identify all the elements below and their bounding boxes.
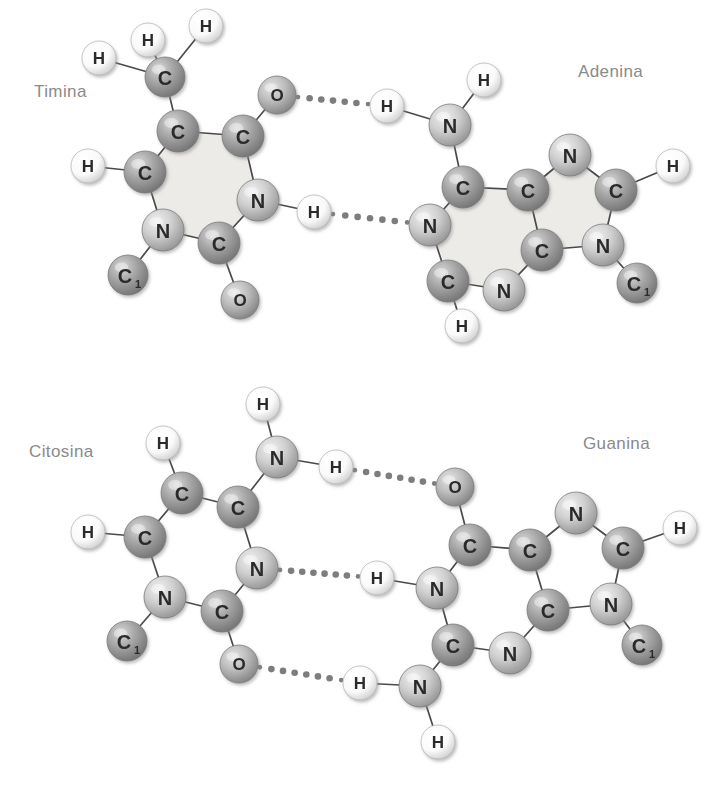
atom-a-c8: C xyxy=(595,169,637,211)
atom-t-c4: C xyxy=(222,115,264,157)
atom-t-c5: C xyxy=(157,110,199,152)
atom-c-n1: N xyxy=(144,576,186,618)
atom-t-ch3-h-mid: H xyxy=(131,23,165,57)
atom-t-n3-h: H xyxy=(297,195,331,229)
atom-g-n7: N xyxy=(555,492,597,534)
atom-layer: HHHCCCONHCONC1CHNHHCNCHNCCNCHNC1HNHHCCNC… xyxy=(71,9,697,759)
atom-a-c2-h: H xyxy=(445,309,479,343)
label-guanina: Guanina xyxy=(583,434,650,454)
atom-a-c2: C xyxy=(427,260,469,302)
atom-c-n4-h-up: H xyxy=(246,387,280,421)
atom-g-c6: C xyxy=(449,524,491,566)
atom-g-n2-h-down: H xyxy=(421,725,455,759)
atom-g-c2: C xyxy=(432,624,474,666)
hb-cg-2 xyxy=(278,568,361,579)
atom-c-c1prime: C1 xyxy=(107,621,147,661)
atom-t-ch3-h-left: H xyxy=(82,41,116,75)
hydrogen-bond-layer xyxy=(257,95,436,683)
atom-a-n1: N xyxy=(409,204,451,246)
hb-at-1 xyxy=(295,95,370,107)
atom-a-n3: N xyxy=(483,269,525,311)
atom-c-c5-h: H xyxy=(146,426,180,460)
label-timina: Timina xyxy=(34,82,87,102)
atom-g-c5: C xyxy=(509,529,551,571)
atom-c-n3: N xyxy=(236,547,278,589)
atom-g-n2-h-left: H xyxy=(343,666,377,700)
atom-a-c1prime: C1 xyxy=(617,263,657,303)
hb-cg-3 xyxy=(257,665,343,683)
hb-at-2 xyxy=(330,212,409,225)
atom-a-c5: C xyxy=(507,169,549,211)
atom-t-c6: C xyxy=(124,151,166,193)
atom-t-ch3-c: C xyxy=(145,57,185,97)
atom-a-n7: N xyxy=(549,134,591,176)
atom-g-n3: N xyxy=(489,632,531,674)
atom-c-c5: C xyxy=(161,472,203,514)
label-adenina: Adenina xyxy=(578,62,643,82)
atom-g-n1: N xyxy=(416,567,458,609)
atom-c-n4-h-right: H xyxy=(319,450,353,484)
atom-c-c6: C xyxy=(124,516,166,558)
label-citosina: Citosina xyxy=(29,442,94,462)
atom-a-n6: N xyxy=(429,104,471,146)
atom-t-n3: N xyxy=(237,179,279,221)
atom-g-c1prime: C1 xyxy=(622,625,662,665)
atom-t-c1prime: C1 xyxy=(108,255,148,295)
atom-g-o6: O xyxy=(436,468,474,506)
atom-g-n2: N xyxy=(399,665,441,707)
atom-t-c6-h: H xyxy=(71,149,105,183)
atom-c-c4: C xyxy=(217,486,259,528)
atom-g-n1-h: H xyxy=(360,561,394,595)
atom-a-c4: C xyxy=(521,229,563,271)
atom-c-c2: C xyxy=(201,590,243,632)
hb-cg-1 xyxy=(352,468,436,486)
atom-c-o2: O xyxy=(220,645,258,683)
atom-g-n9: N xyxy=(590,583,632,625)
atom-t-n1: N xyxy=(142,209,184,251)
atom-a-c8-h: H xyxy=(656,149,690,183)
atom-g-c8-h: H xyxy=(663,511,697,545)
atom-g-c8: C xyxy=(602,527,644,569)
atom-t-o4: O xyxy=(258,76,296,114)
atom-a-n6-h-up: H xyxy=(467,63,501,97)
atom-g-c4: C xyxy=(527,589,569,631)
atom-c-c6-h: H xyxy=(71,515,105,549)
atom-a-c6: C xyxy=(442,166,484,208)
base-pairing-diagram: HHHCCCONHCONC1CHNHHCNCHNCCNCHNC1HNHHCCNC… xyxy=(0,0,719,788)
atom-a-n6-h-left: H xyxy=(370,89,404,123)
atom-t-ch3-h-right: H xyxy=(189,9,223,43)
atom-t-c2: C xyxy=(198,222,240,264)
atom-a-n9: N xyxy=(582,224,624,266)
molecule-canvas: HHHCCCONHCONC1CHNHHCNCHNCCNCHNC1HNHHCCNC… xyxy=(0,0,719,788)
atom-t-o2: O xyxy=(221,281,259,319)
atom-c-n4: N xyxy=(256,436,298,478)
